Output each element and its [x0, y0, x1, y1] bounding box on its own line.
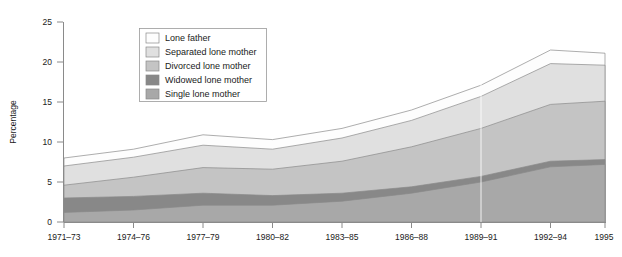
x-tick-label-1992-94: 1992–94 [534, 232, 567, 242]
y-tick-label-5: 5 [47, 177, 52, 187]
legend-label-divorced-lone-mother: Divorced lone mother [165, 61, 251, 71]
legend-label-lone-father: Lone father [165, 33, 211, 43]
y-tick-label-0: 0 [47, 217, 52, 227]
x-tick-label-1974-76: 1974–76 [117, 232, 150, 242]
legend-label-separated-lone-mother: Separated lone mother [165, 47, 257, 57]
y-tick-label-20: 20 [43, 57, 53, 67]
x-tick-label-1971-73: 1971–73 [47, 232, 80, 242]
chart-container: Percentage 25 20 15 10 5 0 [0, 0, 622, 257]
x-tick-label-1983-85: 1983–85 [325, 232, 358, 242]
x-tick-label-1977-79: 1977–79 [186, 232, 219, 242]
x-tick-label-1980-82: 1980–82 [256, 232, 289, 242]
legend-swatch-separated-lone-mother [146, 47, 159, 57]
x-axis-tick-labels: 1971–73 1974–76 1977–79 1980–82 1983–85 … [47, 232, 613, 242]
y-tick-label-10: 10 [43, 137, 53, 147]
legend-label-single-lone-mother: Single lone mother [165, 89, 240, 99]
legend-swatch-single-lone-mother [146, 89, 159, 99]
y-axis-title: Percentage [8, 100, 18, 144]
x-tick-label-1989-91: 1989–91 [464, 232, 497, 242]
stacked-area-chart: Percentage 25 20 15 10 5 0 [0, 0, 622, 257]
x-tick-label-1995: 1995 [595, 232, 614, 242]
chart-legend: Lone father Separated lone mother Divorc… [140, 29, 267, 102]
legend-swatch-widowed-lone-mother [146, 75, 159, 85]
y-tick-label-25: 25 [43, 17, 53, 27]
legend-swatch-divorced-lone-mother [146, 61, 159, 71]
x-tick-label-1986-88: 1986–88 [395, 232, 428, 242]
y-tick-label-15: 15 [43, 97, 53, 107]
legend-label-widowed-lone-mother: Widowed lone mother [165, 75, 252, 85]
legend-swatch-lone-father [146, 33, 159, 43]
y-axis-ticks [57, 22, 63, 222]
y-axis-tick-labels: 25 20 15 10 5 0 [43, 17, 53, 227]
